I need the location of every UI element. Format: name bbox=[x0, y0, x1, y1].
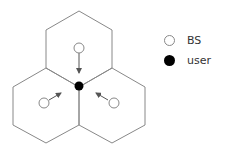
legend-label: user bbox=[187, 54, 211, 67]
filled-circle-icon bbox=[164, 55, 175, 66]
legend: BS user bbox=[164, 30, 211, 70]
bs-left-icon bbox=[39, 98, 49, 108]
arrow-right-to-user bbox=[96, 93, 108, 100]
open-circle-icon bbox=[164, 35, 175, 46]
user-icon bbox=[75, 82, 84, 91]
bs-top-icon bbox=[74, 43, 84, 53]
legend-label: BS bbox=[187, 34, 201, 47]
legend-item-user: user bbox=[164, 50, 211, 70]
legend-item-bs: BS bbox=[164, 30, 211, 50]
bs-right-icon bbox=[109, 98, 119, 108]
arrow-left-to-user bbox=[49, 93, 61, 100]
cell-diagram bbox=[0, 0, 160, 145]
